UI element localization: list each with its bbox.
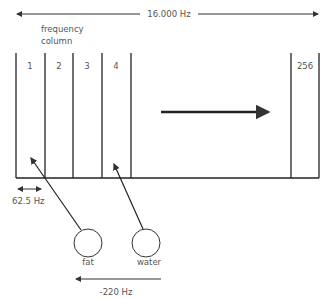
frequency-diagram: 16.000 Hz frequency column 1 2 3 4 256 6… <box>0 0 326 299</box>
column-lines <box>16 53 319 178</box>
column-width-label: 62.5 Hz <box>12 196 45 206</box>
column-caption-line1: frequency <box>41 24 84 34</box>
column-label-2: 2 <box>56 61 61 71</box>
column-label-4: 4 <box>113 61 118 71</box>
column-label-3: 3 <box>84 61 89 71</box>
water-pointer-arrow <box>114 164 143 229</box>
column-label-256: 256 <box>297 61 313 71</box>
column-caption-line2: column <box>41 36 72 46</box>
fat-circle <box>74 229 102 257</box>
bandwidth-label: 16.000 Hz <box>147 9 191 19</box>
column-label-1: 1 <box>27 61 32 71</box>
water-label: water <box>137 257 162 267</box>
shift-label: -220 Hz <box>100 287 133 297</box>
water-circle <box>132 229 160 257</box>
fat-label: fat <box>82 257 94 267</box>
